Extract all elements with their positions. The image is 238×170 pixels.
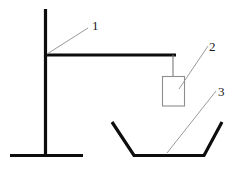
weight-block xyxy=(163,77,185,107)
leader-line-1 xyxy=(47,28,88,54)
callout-label-2: 2 xyxy=(209,39,216,54)
diagram-canvas: 1 2 3 xyxy=(0,0,238,170)
trough-outline xyxy=(112,122,222,156)
callout-label-3: 3 xyxy=(218,84,225,99)
trough-container xyxy=(112,122,222,156)
callout-labels: 1 2 3 xyxy=(92,18,225,99)
callout-label-1: 1 xyxy=(92,18,99,33)
leader-line-2 xyxy=(179,46,208,89)
technical-diagram: 1 2 3 xyxy=(0,0,238,170)
suspended-weight xyxy=(163,55,185,106)
callout-leaders xyxy=(47,28,216,153)
